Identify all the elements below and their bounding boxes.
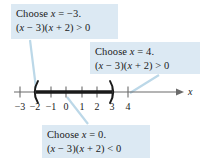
tick-label--2: −2: [27, 101, 43, 112]
tick-label-3: 3: [104, 101, 120, 112]
callout-choose-neg3: Choose x = −3. (x − 3)(x + 2) > 0: [11, 4, 118, 39]
number-line: [0, 78, 206, 118]
callout-choose-0-line1: Choose x = 0.: [47, 128, 145, 141]
tick-label--1: −1: [43, 101, 59, 112]
tick-label-4: 4: [120, 101, 136, 112]
figure-canvas: −3 −2 −1 0 1 2 3 4 x Choose x = −3. (x −…: [0, 0, 206, 167]
tick-label-1: 1: [74, 101, 90, 112]
axis-variable-label: x: [188, 86, 192, 97]
callout-choose-0-line2: (x − 3)(x + 2) < 0: [47, 142, 145, 155]
callout-choose-0: Choose x = 0. (x − 3)(x + 2) < 0: [42, 125, 150, 158]
callout-choose-neg3-line1: Choose x = −3.: [16, 7, 113, 20]
callout-choose-neg3-line2: (x − 3)(x + 2) > 0: [16, 21, 113, 34]
callout-choose-4: Choose x = 4. (x − 3)(x + 2) > 0: [90, 42, 200, 74]
axis-arrowhead: [176, 89, 184, 96]
callout-choose-4-line1: Choose x = 4.: [95, 45, 195, 58]
tick-label-2: 2: [89, 101, 105, 112]
tick-label-0: 0: [58, 101, 74, 112]
callout-choose-4-line2: (x − 3)(x + 2) > 0: [95, 59, 195, 72]
tick-label--3: −3: [12, 101, 28, 112]
